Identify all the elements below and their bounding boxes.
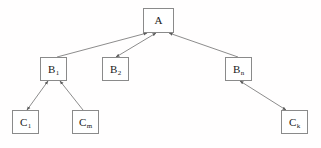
edge-ck-bn	[240, 81, 286, 110]
node-bn-label: Bn	[233, 64, 244, 75]
node-b2[interactable]: B2	[102, 57, 129, 81]
node-cm[interactable]: Cm	[72, 110, 99, 134]
node-b1[interactable]: B1	[40, 57, 67, 81]
diagram-canvas: A B1 B2 Bn C1 Cm Ck	[0, 0, 321, 148]
node-c1-label: C1	[20, 117, 31, 128]
node-ck-label: Ck	[289, 117, 300, 128]
node-a-label: A	[154, 15, 162, 26]
node-b1-label: B1	[48, 64, 59, 75]
node-a[interactable]: A	[143, 8, 174, 33]
edge-a-b2	[116, 33, 156, 57]
node-c1[interactable]: C1	[12, 110, 39, 134]
node-cm-label: Cm	[79, 117, 92, 128]
node-bn[interactable]: Bn	[225, 57, 252, 81]
node-b2-label: B2	[110, 64, 121, 75]
edge-b1-a	[57, 33, 147, 57]
edge-c1-b1	[27, 81, 48, 110]
edge-cm-b1	[60, 81, 83, 110]
node-ck[interactable]: Ck	[281, 110, 308, 134]
edge-bn-a	[169, 33, 238, 57]
